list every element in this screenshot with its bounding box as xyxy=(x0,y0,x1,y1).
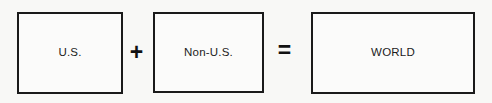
box-us: U.S. xyxy=(17,12,123,94)
box-world-label: WORLD xyxy=(371,47,415,59)
box-non-us-label: Non-U.S. xyxy=(184,47,233,59)
equation-diagram: U.S. + Non-U.S. = WORLD xyxy=(0,0,492,103)
box-world: WORLD xyxy=(311,12,475,94)
plus-sign-icon: + xyxy=(126,41,147,65)
box-non-us: Non-U.S. xyxy=(153,12,264,93)
equals-sign-icon: = xyxy=(274,39,295,63)
box-us-label: U.S. xyxy=(58,47,81,59)
